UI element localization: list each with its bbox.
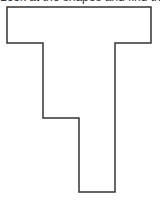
t-shaped-polygon <box>7 7 151 192</box>
perimeter-shape-diagram <box>0 0 160 200</box>
